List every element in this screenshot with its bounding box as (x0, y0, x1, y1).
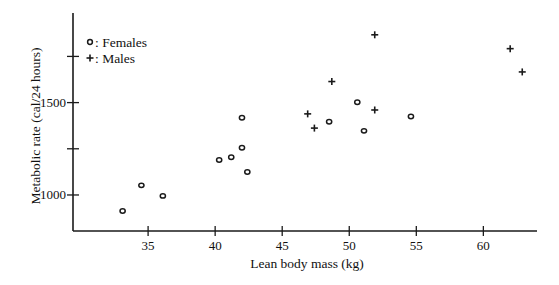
y-tick-label: 1500 (40, 95, 66, 110)
female-data-point (355, 100, 360, 104)
legend-male-label: : Males (95, 51, 135, 66)
plus-icon (87, 55, 94, 62)
y-tick-label: 1000 (40, 187, 66, 202)
x-ticks: 354045505560 (142, 226, 490, 253)
male-data-point (311, 125, 318, 132)
x-tick-label: 40 (209, 238, 222, 253)
female-data-point (239, 116, 244, 120)
x-tick-label: 35 (142, 238, 155, 253)
female-data-point (327, 120, 332, 124)
female-data-point (139, 183, 144, 187)
x-tick-label: 50 (343, 238, 356, 253)
male-data-point (519, 68, 526, 75)
legend: : Females : Males (87, 35, 148, 66)
female-data-point (408, 114, 413, 118)
male-data-point (328, 78, 335, 85)
female-data-point (245, 170, 250, 174)
scatter-chart: 354045505560 10001500 Lean body mass (kg… (0, 0, 559, 285)
male-data-point (371, 106, 378, 113)
female-data-point (217, 158, 222, 162)
legend-female-marker-icon (88, 40, 93, 45)
y-axis-title: Metabolic rate (cal/24 hours) (28, 47, 43, 204)
legend-male-marker-icon (87, 55, 94, 62)
male-data-point (507, 45, 514, 52)
data-points (120, 31, 526, 213)
female-data-point (160, 194, 165, 198)
legend-female-label: : Females (95, 35, 147, 50)
male-data-point (304, 110, 311, 117)
x-tick-label: 55 (410, 238, 423, 253)
male-data-point (371, 31, 378, 38)
x-tick-label: 45 (276, 238, 289, 253)
female-data-point (120, 209, 125, 213)
x-tick-label: 60 (477, 238, 490, 253)
female-data-point (229, 155, 234, 159)
female-data-point (239, 145, 244, 149)
female-data-point (361, 129, 366, 133)
x-axis-title: Lean body mass (kg) (250, 256, 364, 271)
